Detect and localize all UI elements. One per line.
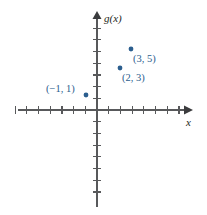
data-point-dot xyxy=(84,93,89,98)
data-point-dot xyxy=(129,47,134,52)
y-axis-arrow-icon xyxy=(93,11,102,19)
coordinate-plane-svg: g(x) x (−1, 1) (2, 3) (3, 5) xyxy=(0,0,207,215)
point-label-3-5: (3, 5) xyxy=(133,53,156,65)
y-axis-label: g(x) xyxy=(104,12,122,25)
data-point-dot xyxy=(118,66,123,71)
point-label-minus1-1: (−1, 1) xyxy=(46,83,75,95)
x-axis-arrow-icon xyxy=(184,106,193,115)
coordinate-plane-figure: g(x) x (−1, 1) (2, 3) (3, 5) xyxy=(0,0,207,215)
x-axis-label: x xyxy=(185,116,191,128)
point-label-2-3: (2, 3) xyxy=(122,72,145,84)
